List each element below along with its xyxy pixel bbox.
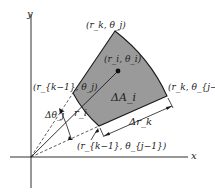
delta-r-label: Δr_k — [129, 117, 152, 127]
y-axis-label: y — [27, 9, 33, 19]
inner-bottom-corner-label: (r_{k−1}, θ_{j−1}) — [77, 142, 166, 151]
delta-theta-label: Δθ_j — [45, 111, 64, 120]
outer-top-corner-label: (r_k, θ_j) — [86, 21, 126, 30]
delta-r-arrowhead-left — [104, 132, 110, 136]
area-label: ΔA_i — [111, 92, 136, 103]
delta-r-arrowhead-right — [166, 106, 172, 110]
x-axis-label: x — [191, 151, 197, 161]
area-element-region — [73, 31, 167, 126]
inner-top-corner-label: (r_{k−1}, θ_j) — [33, 83, 97, 92]
inner-corner-pointer-arrowhead — [95, 128, 99, 133]
delta-r-tick-inner — [100, 128, 104, 137]
center-point-label: (r_i, θ_i) — [104, 55, 141, 64]
outer-right-corner-label: (r_k, θ_{j−1}) — [168, 83, 215, 92]
radius-label: r_i — [74, 108, 87, 118]
center-point-dot — [116, 69, 121, 74]
